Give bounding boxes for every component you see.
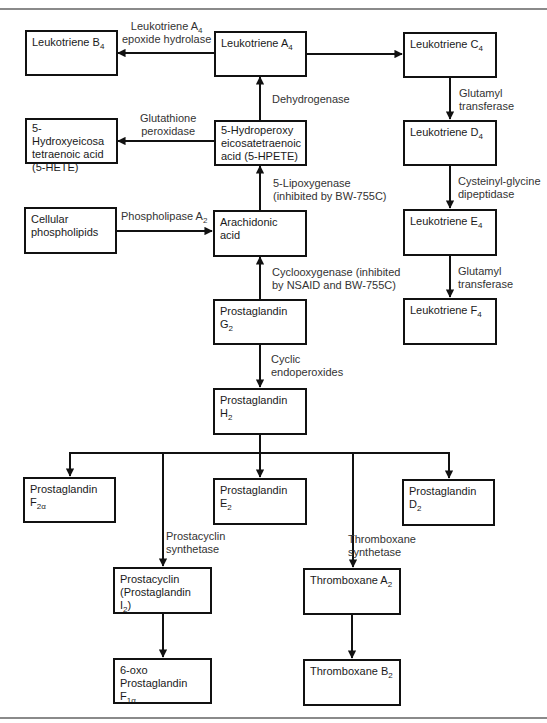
node-leukotriene-e4: Leukotriene E4 xyxy=(403,209,497,256)
label-glutathione-peroxidase: Glutathione peroxidase xyxy=(140,112,196,138)
node-thromboxane-a2: Thromboxane A2 xyxy=(303,568,401,615)
node-arachidonic-acid: Arachidonic acid xyxy=(213,210,307,257)
node-prostacyclin: Prostacyclin (Prostaglandin I2) xyxy=(113,567,212,614)
node-6-oxo-prostaglandin-f1a: 6-oxo Prostaglandin F1α xyxy=(113,658,212,704)
node-leukotriene-b4: Leukotriene B4 xyxy=(25,30,118,76)
label-glutamyl-transferase-1: Glutamyl transferase xyxy=(459,87,514,113)
node-prostaglandin-h2: Prostaglandin H2 xyxy=(213,388,307,435)
node-5-hpete: 5-Hydroperoxy eicosatetraenoic acid (5-H… xyxy=(214,120,307,166)
node-prostaglandin-g2: Prostaglandin G2 xyxy=(213,299,307,345)
node-leukotriene-a4: Leukotriene A4 xyxy=(214,31,307,77)
label-5-lipoxygenase: 5-Lipoxygenase (inhibited by BW-755C) xyxy=(273,177,387,203)
node-leukotriene-f4: Leukotriene F4 xyxy=(403,298,497,345)
label-prostacyclin-synthetase: Prostacyclin synthetase xyxy=(166,530,225,556)
node-thromboxane-b2: Thromboxane B2 xyxy=(303,659,401,706)
label-phospholipase-a2: Phospholipase A2 xyxy=(121,210,207,223)
label-lta4-epoxide-hydrolase: Leukotriene A4 epoxide hydrolase xyxy=(122,20,211,46)
node-cellular-phospholipids: Cellular phospholipids xyxy=(24,207,117,254)
label-cyclooxygenase: Cyclooxygenase (inhibited by NSAID and B… xyxy=(272,266,400,292)
label-thromboxane-synthetase: Thromboxane synthetase xyxy=(348,533,416,559)
node-prostaglandin-e2: Prostaglandin E2 xyxy=(213,478,307,525)
node-leukotriene-c4: Leukotriene C4 xyxy=(403,32,497,78)
node-prostaglandin-f2a: Prostaglandin F2α xyxy=(23,477,116,523)
node-prostaglandin-d2: Prostaglandin D2 xyxy=(402,479,495,526)
node-leukotriene-d4: Leukotriene D4 xyxy=(403,120,497,166)
label-cyclic-endoperoxides: Cyclic endoperoxides xyxy=(271,353,343,379)
label-glutamyl-transferase-2: Glutamyl transferase xyxy=(458,265,513,291)
label-cysteinyl-glycine-dipeptidase: Cysteinyl-glycine dipeptidase xyxy=(458,175,541,201)
node-5-hete: 5-Hydroxyeicosa tetraenoic acid (5-HETE) xyxy=(25,118,118,164)
label-dehydrogenase: Dehydrogenase xyxy=(272,93,350,106)
